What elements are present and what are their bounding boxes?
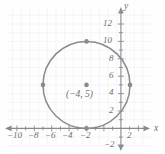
point-right	[128, 83, 133, 88]
grid-lines	[8, 8, 152, 146]
y-tick-label-4: 4	[109, 88, 114, 97]
x-tick-label-2: 2	[127, 131, 132, 140]
point-left	[41, 83, 46, 88]
y-tick-label-10: 10	[103, 36, 112, 45]
x-tick-label-neg6: −6	[45, 131, 56, 140]
y-tick-label-12: 12	[103, 19, 112, 28]
y-axis-label: y	[124, 2, 128, 12]
y-axis	[118, 7, 124, 151]
x-tick-label-neg4: −4	[62, 131, 73, 140]
x-tick-label-neg10: −10	[7, 131, 22, 140]
point-top	[84, 39, 89, 44]
x-axis-label: x	[154, 124, 158, 134]
x-tick-label-neg8: −8	[28, 131, 39, 140]
center-annotation: (−4, 5)	[66, 90, 93, 100]
x-tick-label-neg2: −2	[80, 131, 91, 140]
y-tick-label-2: 2	[109, 106, 114, 115]
y-tick-label-8: 8	[109, 54, 114, 63]
y-tick-label-6: 6	[109, 71, 114, 80]
y-tick-label-neg2: −2	[104, 140, 115, 149]
circle-graph-figure: 12 10 8 6 4 2 −2 −10 −8 −6 −4 −2 2 x y (…	[0, 0, 165, 154]
point-center	[84, 83, 89, 88]
